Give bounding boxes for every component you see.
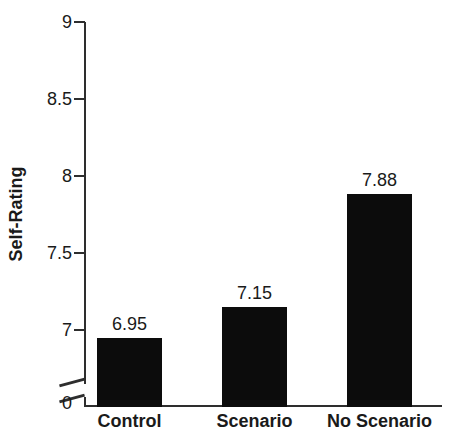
- y-tick-mark: [74, 98, 85, 100]
- bar-value-label-no-scenario: 7.88: [335, 170, 425, 190]
- y-tick-mark: [74, 175, 85, 177]
- x-category-label-no-scenario: No Scenario: [310, 411, 450, 431]
- y-tick-label: 7: [32, 320, 72, 340]
- bar-control: [97, 338, 162, 407]
- x-category-label-control: Control: [60, 411, 200, 431]
- y-tick-label: 8.5: [32, 89, 72, 109]
- axis-break-mark-upper: [59, 378, 85, 388]
- y-tick-label: 9: [32, 12, 72, 32]
- bar-value-label-scenario: 7.15: [210, 283, 300, 303]
- y-tick-mark: [74, 21, 85, 23]
- y-tick-mark: [74, 329, 85, 331]
- x-category-label-scenario: Scenario: [185, 411, 325, 431]
- y-zero-label: 0: [32, 393, 72, 413]
- bar-scenario: [222, 307, 287, 407]
- y-tick-label: 7.5: [32, 243, 72, 263]
- y-tick-mark: [74, 252, 85, 254]
- bar-chart-figure: Self-Rating 98.587.570 6.95Control7.15Sc…: [0, 0, 451, 433]
- bar-value-label-control: 6.95: [85, 314, 175, 334]
- y-tick-label: 8: [32, 166, 72, 186]
- y-axis-title: Self-Rating: [6, 166, 27, 261]
- bar-no-scenario: [347, 194, 412, 407]
